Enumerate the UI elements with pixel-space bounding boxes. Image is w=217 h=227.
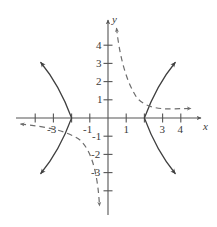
y-tick-label-3: 3	[96, 58, 102, 69]
graph-figure: -3 -1 1 3 4 4 3 2 1 -1 -2 -3 x y	[0, 0, 217, 227]
y-tick-label--3: -3	[91, 167, 100, 178]
plot-canvas	[0, 0, 217, 227]
y-tick-label-4: 4	[96, 40, 102, 51]
x-tick-label-4: 4	[178, 124, 184, 135]
y-tick-label-2: 2	[96, 76, 102, 87]
x-tick-label-3: 3	[160, 124, 166, 135]
x-tick-label--1: -1	[83, 124, 92, 135]
x-tick-label--3: -3	[47, 124, 56, 135]
x-tick-label-1: 1	[124, 124, 130, 135]
y-tick-label-1: 1	[97, 94, 103, 105]
y-tick-label--1: -1	[92, 131, 101, 142]
y-axis-label: y	[112, 14, 117, 25]
x-axis-label: x	[203, 121, 208, 132]
y-tick-label--2: -2	[91, 149, 100, 160]
dashed-curve-lower-branch	[21, 124, 100, 206]
